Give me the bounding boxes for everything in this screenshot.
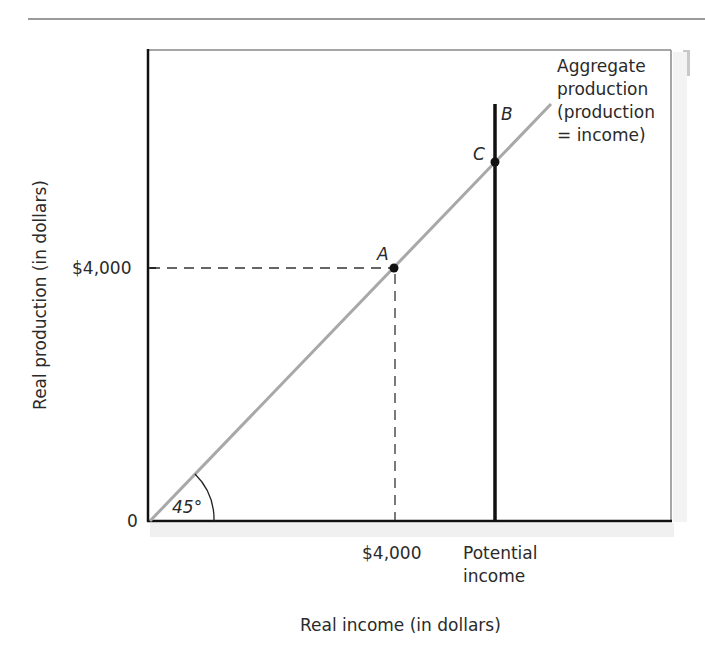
axis-shadow xyxy=(150,523,674,537)
point-b-label: B xyxy=(501,104,513,125)
point-a-label: A xyxy=(377,244,389,265)
potential-label-2: income xyxy=(463,566,525,587)
x-tick-label: $4,000 xyxy=(362,543,421,564)
x-axis-label: Real income (in dollars) xyxy=(300,615,501,636)
y-tick-label: $4,000 xyxy=(72,258,131,279)
point-a xyxy=(390,264,399,273)
point-c-label: C xyxy=(473,144,485,165)
aggregate-label-1: Aggregate xyxy=(557,56,646,77)
frame-shadow xyxy=(673,52,687,522)
y-axis-label: Real production (in dollars) xyxy=(30,175,50,415)
origin-label: 0 xyxy=(127,511,138,532)
aggregate-label-2: production xyxy=(557,79,648,100)
point-c xyxy=(491,158,500,167)
aggregate-production-line xyxy=(150,104,551,521)
aggregate-label-3: (production xyxy=(557,102,655,123)
angle-label: 45° xyxy=(172,497,202,518)
aggregate-label-4: = income) xyxy=(557,125,646,146)
potential-label-1: Potential xyxy=(463,543,537,564)
